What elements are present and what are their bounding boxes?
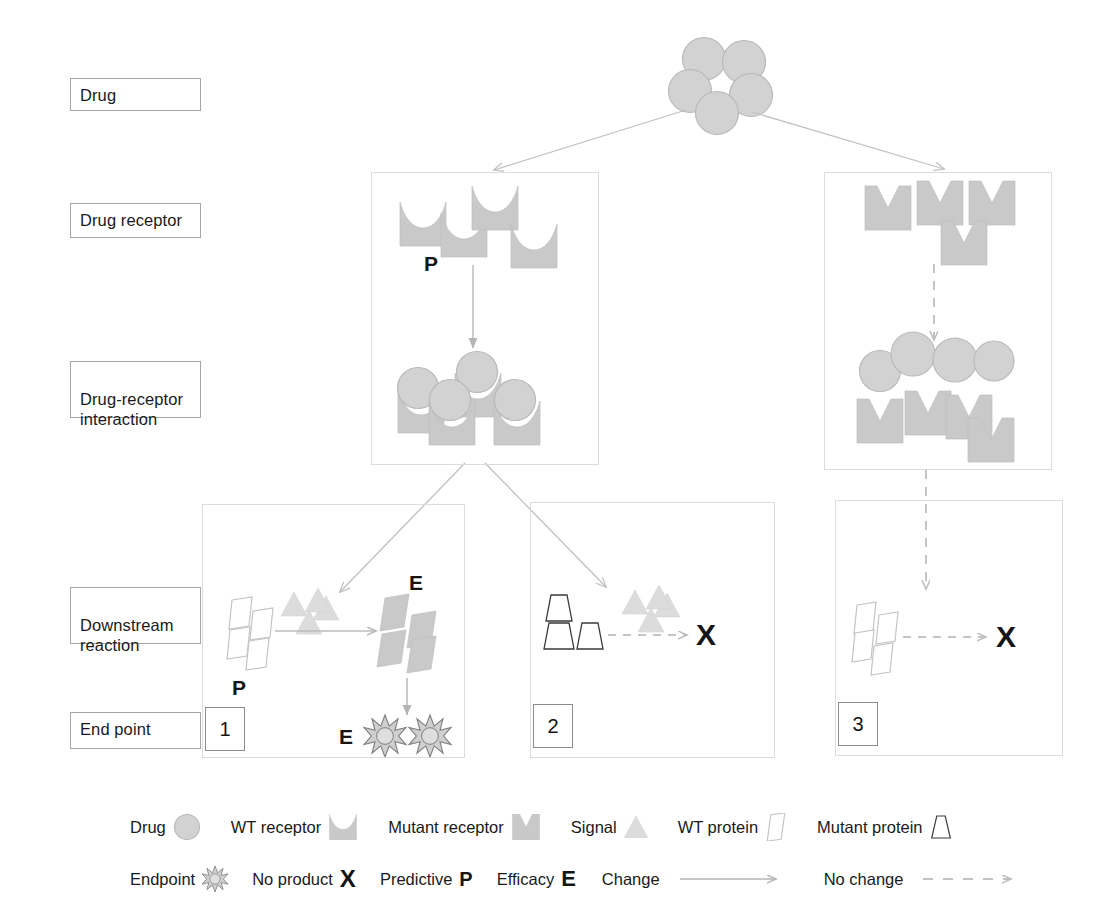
legend-row-annotations: Endpoint No product X Predictive P Effic… [130, 858, 1070, 900]
stage-label-drug-receptor: Drug receptor [70, 203, 201, 238]
legend-item-mutant-receptor: Mutant receptor [388, 814, 541, 840]
legend-label: Mutant protein [817, 818, 922, 837]
panel-index-text: 1 [219, 718, 230, 741]
legend-row-symbols: Drug WT receptor Mutant receptor [130, 806, 1070, 848]
legend-label: Drug [130, 818, 166, 837]
dashed-arrow-icon [921, 871, 1025, 887]
predictive-symbol: P [459, 868, 472, 891]
legend-item-efficacy: Efficacy E [497, 866, 576, 892]
legend-label: Signal [571, 818, 617, 837]
stage-label-drug: Drug [70, 78, 201, 111]
solid-arrow-icon [678, 871, 790, 887]
legend-item-no-product: No product X [252, 865, 356, 893]
mutant-protein-icon [930, 814, 952, 840]
stage-label-text: End point [80, 720, 151, 738]
legend-item-drug: Drug [130, 813, 201, 841]
legend-label: Endpoint [130, 870, 195, 889]
panel-index-3: 3 [838, 702, 878, 746]
legend-label: Efficacy [497, 870, 554, 889]
legend-label: Predictive [380, 870, 452, 889]
stage-label-drug-receptor-interaction: Drug-receptor interaction [70, 361, 201, 418]
branch-arrow-right [752, 112, 944, 169]
legend-item-change: Change [602, 870, 790, 889]
legend-label: Change [602, 870, 660, 889]
panel-index-1: 1 [205, 707, 245, 751]
marker-predictive-panel1-protein: P [232, 677, 246, 698]
legend-item-mutant-protein: Mutant protein [817, 814, 951, 840]
legend: Drug WT receptor Mutant receptor [130, 800, 1070, 912]
legend-item-no-change: No change [824, 870, 1026, 889]
legend-label: No change [824, 870, 904, 889]
figure-root: Drug Drug receptor Drug-receptor interac… [0, 0, 1100, 921]
signal-triangle-icon [624, 816, 648, 838]
branch-arrow-left [494, 110, 686, 170]
stage-label-text: Drug receptor [80, 211, 182, 229]
legend-label: WT protein [678, 818, 758, 837]
legend-item-wt-protein: WT protein [678, 813, 787, 841]
legend-item-endpoint: Endpoint [130, 866, 228, 892]
marker-efficacy-panel1-product: E [409, 572, 423, 593]
panel-mutant-receptor [824, 172, 1052, 470]
drug-circle-icon [173, 813, 201, 841]
endpoint-starburst-icon [202, 866, 228, 892]
marker-no-product-panel3: X [996, 622, 1016, 652]
mutant-receptor-icon [511, 814, 541, 840]
wt-receptor-icon [328, 814, 358, 840]
legend-item-signal: Signal [571, 816, 648, 838]
legend-item-predictive: Predictive P [380, 868, 473, 891]
panel-index-text: 2 [547, 715, 558, 738]
stage-label-end-point: End point [70, 712, 201, 749]
no-product-symbol: X [340, 865, 356, 893]
drug-cluster [669, 38, 773, 135]
wt-protein-icon [765, 813, 787, 841]
panel-index-2: 2 [533, 704, 573, 748]
marker-no-product-panel2: X [696, 620, 716, 650]
marker-predictive-receptor: P [424, 253, 438, 274]
marker-efficacy-panel1-endpoint: E [339, 726, 353, 747]
panel-index-text: 3 [852, 713, 863, 736]
legend-label: No product [252, 870, 333, 889]
legend-label: WT receptor [231, 818, 321, 837]
stage-label-downstream-reaction: Downstream reaction [70, 587, 201, 644]
panel-wt-receptor [371, 172, 599, 465]
legend-label: Mutant receptor [388, 818, 504, 837]
stage-label-text: Drug [80, 86, 116, 104]
legend-item-wt-receptor: WT receptor [231, 814, 358, 840]
efficacy-symbol: E [561, 866, 576, 892]
